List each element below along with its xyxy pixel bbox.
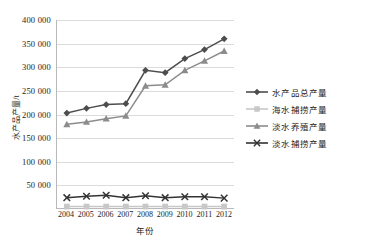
x-axis-tick-label: 2006	[97, 210, 113, 219]
legend-label: 淡水养殖产量	[272, 120, 328, 132]
series-square	[64, 204, 227, 210]
x-axis-tick-label: 2009	[157, 210, 173, 219]
legend-marker-triangle-icon	[246, 120, 268, 132]
series-triangle	[63, 47, 227, 127]
legend-item[interactable]: 水产品总产量	[246, 84, 364, 100]
x-axis-tick-label: 2011	[196, 210, 212, 219]
x-axis-tick-label: 2008	[137, 210, 153, 219]
x-axis-tick-label: 2010	[177, 210, 193, 219]
x-axis-tick-label: 2012	[216, 210, 232, 219]
x-axis-tick-label: 2005	[78, 210, 94, 219]
legend-item[interactable]: 海水捕捞产量	[246, 101, 364, 117]
y-axis-tick-label: 100 000	[22, 157, 51, 167]
series-diamond	[63, 35, 227, 116]
x-axis-tick-label: 2004	[58, 210, 74, 219]
y-axis-tick-labels: 50 000100 000150 000200 000250 000300 00…	[0, 14, 54, 209]
y-axis-tick-label: 350 000	[22, 39, 51, 49]
legend-marker-cross-icon	[246, 137, 268, 149]
legend-item[interactable]: 淡水捕捞产量	[246, 135, 364, 151]
legend-marker-square-icon	[246, 103, 268, 115]
y-axis-tick-label: 300 000	[22, 62, 51, 72]
legend-label: 水产品总产量	[272, 86, 328, 98]
plot-area	[56, 20, 234, 209]
legend-item[interactable]: 淡水养殖产量	[246, 118, 364, 134]
legend-label: 海水捕捞产量	[272, 103, 328, 115]
x-axis-tick-label: 2007	[117, 210, 133, 219]
y-axis-tick-label: 200 000	[22, 110, 51, 120]
y-axis-tick-label: 50 000	[26, 180, 51, 190]
chart-legend: 水产品总产量海水捕捞产量淡水养殖产量淡水捕捞产量	[246, 84, 364, 152]
x-axis-tick-labels: 200420052006200720082009201020112012	[56, 210, 234, 224]
fishery-production-line-chart: 水产品产量/t 50 000100 000150 000200 000250 0…	[0, 0, 366, 249]
x-axis-title: 年份	[56, 224, 234, 236]
y-axis-tick-label: 250 000	[22, 86, 51, 96]
plot-series-layer	[57, 20, 234, 208]
legend-marker-diamond-icon	[246, 86, 268, 98]
legend-label: 淡水捕捞产量	[272, 137, 328, 149]
series-cross	[64, 192, 228, 201]
y-axis-tick-label: 400 000	[22, 15, 51, 25]
y-axis-tick-label: 150 000	[22, 133, 51, 143]
